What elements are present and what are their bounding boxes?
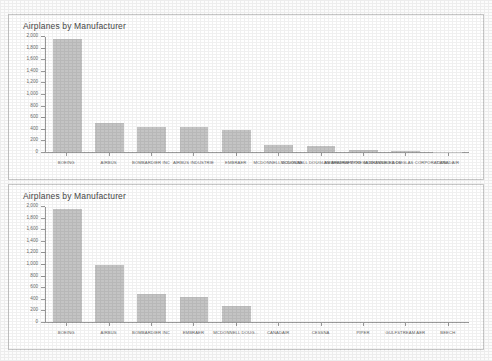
x-tick-top [66, 153, 67, 156]
y-tick-top: 1,800 [41, 48, 45, 49]
y-tick-label-bottom: 1,000 [27, 260, 39, 267]
y-tick-bottom: 1,400 [41, 241, 45, 242]
y-tick-bottom: 1,200 [41, 252, 45, 253]
plot-area-bottom: 02004006008001,0001,2001,4001,6001,8002,… [45, 207, 469, 323]
x-tick-labels-bottom: BOEINGAIRBUSBOMBARDIER INCEMBRAERMCDONNE… [45, 329, 469, 339]
x-tick-top [278, 153, 279, 156]
x-axis-label: GULFSTREAM AER [386, 329, 426, 337]
y-tick-label-bottom: 1,800 [27, 214, 39, 221]
x-axis-label: AIRBUS INDUSTRIE [173, 159, 214, 167]
bar[interactable] [349, 150, 378, 152]
x-tick-top [448, 153, 449, 156]
x-tick-top [193, 153, 194, 156]
y-tick-bottom: 2,000 [41, 206, 45, 207]
bar-series-top [46, 37, 469, 152]
x-tick-bottom [321, 323, 322, 326]
y-tick-label-bottom: 0 [35, 318, 38, 325]
y-tick-label-top: 800 [30, 102, 38, 109]
y-tick-bottom: 200 [41, 310, 45, 311]
x-tick-top [321, 153, 322, 156]
y-tick-label-top: 2,000 [27, 32, 39, 39]
x-tick-labels-top: BOEINGAIRBUSBOMBARDIER INCAIRBUS INDUSTR… [45, 159, 469, 169]
screenshot-root: Airplanes by Manufacturer 02004006008001… [0, 0, 492, 361]
y-tick-label-top: 600 [30, 113, 38, 120]
x-tick-top [236, 153, 237, 156]
plot-area-top: 02004006008001,0001,2001,4001,6001,8002,… [45, 37, 469, 153]
x-axis-label: CANADAIR [437, 159, 459, 167]
y-tick-label-top: 0 [35, 148, 38, 155]
y-tick-top: 0 [41, 152, 45, 153]
y-tick-bottom: 0 [41, 322, 45, 323]
chart-panel-top: Airplanes by Manufacturer 02004006008001… [8, 14, 484, 180]
y-tick-bottom: 600 [41, 287, 45, 288]
x-tick-bottom [66, 323, 67, 326]
x-axis-label: EMBRAER [183, 329, 204, 337]
x-axis-label: BOMBARDIER INC [132, 159, 170, 167]
x-axis-label: EMBRAER [225, 159, 246, 167]
y-tick-label-bottom: 1,400 [27, 237, 39, 244]
bar[interactable] [222, 306, 251, 322]
y-tick-top: 400 [41, 129, 45, 130]
y-tick-bottom: 1,000 [41, 264, 45, 265]
y-tick-top: 1,600 [41, 59, 45, 60]
x-axis-label: CESSNA [312, 329, 330, 337]
y-tick-top: 200 [41, 140, 45, 141]
bar[interactable] [53, 39, 82, 152]
x-tick-bottom [363, 323, 364, 326]
y-tick-bottom: 800 [41, 276, 45, 277]
bar[interactable] [391, 151, 420, 152]
x-tick-bottom [109, 323, 110, 326]
y-tick-label-bottom: 1,600 [27, 225, 39, 232]
bar[interactable] [95, 265, 124, 323]
x-axis-label: BOMBARDIER INC [132, 329, 170, 337]
x-tick-top [363, 153, 364, 156]
y-tick-top: 1,000 [41, 94, 45, 95]
y-tick-top: 800 [41, 106, 45, 107]
y-tick-bottom: 1,600 [41, 229, 45, 230]
chart-title-top: Airplanes by Manufacturer [23, 21, 126, 31]
x-axis-label: MCDONNELL DOUGLAS CORPORATION [364, 159, 447, 167]
x-tick-bottom [278, 323, 279, 326]
x-axis-label: BEECH [440, 329, 455, 337]
bar[interactable] [222, 130, 251, 152]
x-tick-top [151, 153, 152, 156]
y-tick-top: 1,200 [41, 82, 45, 83]
bar[interactable] [95, 123, 124, 152]
y-tick-label-bottom: 800 [30, 272, 38, 279]
x-tick-top [405, 153, 406, 156]
y-tick-label-bottom: 1,200 [27, 248, 39, 255]
x-axis-label: CANADAIR [267, 329, 289, 337]
y-tick-label-top: 1,400 [27, 67, 39, 74]
x-tick-bottom [405, 323, 406, 326]
x-tick-bottom [193, 323, 194, 326]
x-axis-label: MCDONNELL DOUG... [213, 329, 258, 337]
x-tick-bottom [236, 323, 237, 326]
bar[interactable] [180, 127, 209, 152]
y-tick-label-bottom: 400 [30, 295, 38, 302]
bar[interactable] [53, 209, 82, 322]
y-tick-label-bottom: 600 [30, 283, 38, 290]
x-axis-label: AIRBUS [100, 159, 116, 167]
y-tick-label-bottom: 2,000 [27, 202, 39, 209]
bar-series-bottom [46, 207, 469, 322]
x-axis-label: AIRBUS [100, 329, 116, 337]
y-tick-label-top: 1,200 [27, 78, 39, 85]
bar[interactable] [180, 297, 209, 322]
bar[interactable] [307, 146, 336, 152]
y-tick-top: 1,400 [41, 71, 45, 72]
bar[interactable] [137, 294, 166, 322]
x-axis-label: BOEING [58, 329, 75, 337]
x-axis-label: BOEING [58, 159, 75, 167]
x-axis-label: PIPER [356, 329, 369, 337]
bar[interactable] [137, 127, 166, 152]
y-tick-label-top: 400 [30, 125, 38, 132]
chart-title-bottom: Airplanes by Manufacturer [23, 191, 126, 201]
y-tick-label-top: 1,000 [27, 90, 39, 97]
x-tick-top [109, 153, 110, 156]
y-tick-bottom: 1,800 [41, 218, 45, 219]
y-tick-label-top: 200 [30, 136, 38, 143]
y-tick-top: 2,000 [41, 36, 45, 37]
y-tick-label-top: 1,600 [27, 55, 39, 62]
y-tick-bottom: 400 [41, 299, 45, 300]
bar[interactable] [264, 145, 293, 152]
